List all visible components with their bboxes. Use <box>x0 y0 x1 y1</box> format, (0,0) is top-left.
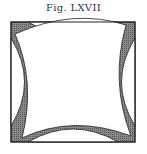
central-region <box>15 18 131 138</box>
geometric-figure <box>0 0 147 154</box>
